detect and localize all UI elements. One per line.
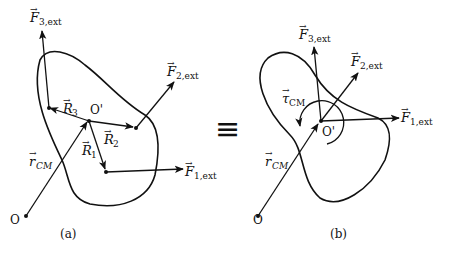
f3-label: F 3,ext → bbox=[29, 4, 62, 27]
cm-dot bbox=[87, 119, 91, 123]
f2-vector bbox=[321, 73, 358, 121]
torque-label: τ CM → bbox=[282, 85, 305, 108]
svg-text:1,ext: 1,ext bbox=[194, 171, 217, 181]
vector-arrow: → bbox=[401, 104, 409, 114]
f1-label: F 1,ext → bbox=[400, 104, 433, 127]
rigid-body-outline bbox=[37, 52, 158, 206]
vector-arrow: → bbox=[351, 48, 359, 58]
svg-text:CM: CM bbox=[272, 161, 289, 171]
svg-text:2,ext: 2,ext bbox=[176, 71, 199, 81]
f2-vector bbox=[136, 82, 174, 128]
svg-text:3: 3 bbox=[72, 108, 78, 118]
svg-text:2: 2 bbox=[113, 139, 119, 149]
vector-arrow: → bbox=[299, 21, 307, 31]
vector-arrow: → bbox=[282, 85, 290, 95]
panel-b: O O' F 3,ext → F 2,ext → F 1,ext → τ CM … bbox=[253, 21, 433, 241]
svg-text:CM: CM bbox=[289, 98, 305, 108]
equivalence-symbol: ≡ bbox=[215, 111, 240, 146]
svg-text:2,ext: 2,ext bbox=[360, 61, 383, 71]
f1-vector bbox=[106, 169, 183, 172]
vector-arrow: → bbox=[30, 4, 38, 14]
f3-label: F 3,ext → bbox=[298, 21, 331, 44]
vector-arrow: → bbox=[185, 158, 193, 168]
r-cm-label: r CM → bbox=[29, 148, 53, 171]
vector-arrow: → bbox=[167, 58, 175, 68]
free-body-diagram: O O' F 3,ext → F 2,ext → F 1,ext → R 3 →… bbox=[0, 0, 449, 260]
vector-arrow: → bbox=[29, 148, 37, 158]
r2-label: R 2 → bbox=[103, 126, 119, 149]
vector-arrow: → bbox=[265, 148, 273, 158]
f3-vector bbox=[314, 47, 321, 121]
r-cm-label: r CM → bbox=[265, 148, 289, 171]
r3-label: R 3 → bbox=[62, 95, 78, 118]
f2-label: F 2,ext → bbox=[166, 58, 199, 81]
cm-label: O' bbox=[90, 103, 103, 117]
vector-arrow: → bbox=[82, 137, 90, 147]
vector-arrow: → bbox=[63, 95, 71, 105]
svg-text:1: 1 bbox=[91, 150, 97, 160]
f1-vector bbox=[321, 118, 399, 121]
origin-label: O bbox=[253, 213, 263, 227]
f2-label: F 2,ext → bbox=[350, 48, 383, 71]
svg-text:3,ext: 3,ext bbox=[39, 17, 62, 27]
vector-arrow: → bbox=[104, 126, 112, 136]
svg-text:CM: CM bbox=[36, 161, 53, 171]
origin-label: O bbox=[10, 213, 20, 227]
panel-a: O O' F 3,ext → F 2,ext → F 1,ext → R 3 →… bbox=[10, 4, 217, 241]
r1-label: R 1 → bbox=[81, 137, 97, 160]
f1-label: F 1,ext → bbox=[184, 158, 217, 181]
cm-label: O' bbox=[322, 125, 335, 139]
caption-a: (a) bbox=[60, 227, 77, 241]
origin-dot bbox=[24, 214, 28, 218]
caption-b: (b) bbox=[330, 227, 347, 241]
f3-vector bbox=[42, 31, 49, 108]
svg-text:1,ext: 1,ext bbox=[410, 117, 433, 127]
svg-text:3,ext: 3,ext bbox=[308, 34, 331, 44]
